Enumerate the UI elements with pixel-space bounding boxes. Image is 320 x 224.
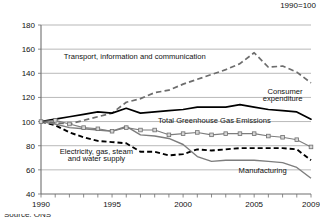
series-marker	[82, 126, 86, 130]
y-axis-tick-labels: 406080100120140160180	[22, 21, 36, 199]
x-tick-label: 2009	[302, 200, 320, 209]
source-note-strip: Source: ONS	[0, 214, 320, 224]
series-marker	[139, 128, 143, 132]
source-note: Source: ONS	[4, 214, 51, 219]
x-tick-label: 2000	[174, 200, 192, 209]
y-tick-label: 100	[22, 118, 36, 127]
series-annotation: Transport, information and communication	[64, 52, 206, 61]
series-marker	[167, 133, 171, 137]
series-marker	[252, 132, 256, 136]
series-marker	[110, 129, 114, 133]
series-marker	[281, 135, 285, 139]
series-marker	[210, 133, 214, 137]
series-marker	[68, 122, 72, 126]
series-marker	[224, 132, 228, 136]
series-marker	[267, 134, 271, 138]
chart-container: 1990=100 406080100120140160180 199019952…	[0, 0, 320, 224]
y-tick-label: 80	[26, 142, 35, 151]
series-annotations: Transport, information and communication…	[60, 52, 303, 176]
series-marker	[309, 145, 313, 149]
series-annotation: and water supply	[68, 154, 126, 163]
series-marker	[124, 126, 128, 130]
x-tick-label: 1995	[103, 200, 121, 209]
series-marker	[153, 128, 157, 132]
x-tick-label: 1990	[32, 200, 50, 209]
series-marker	[96, 127, 100, 131]
x-tick-label: 2005	[245, 200, 263, 209]
series-marker	[238, 132, 242, 136]
y-tick-label: 180	[22, 21, 36, 30]
y-tick-label: 120	[22, 93, 36, 102]
y-tick-label: 160	[22, 45, 36, 54]
x-axis-tick-labels: 19901995200020052009	[32, 200, 320, 209]
series-marker	[53, 119, 57, 123]
y-tick-label: 60	[26, 166, 35, 175]
series-marker	[39, 120, 43, 124]
series-marker	[181, 132, 185, 136]
y-tick-label: 40	[26, 190, 35, 199]
y-tick-label: 140	[22, 69, 36, 78]
series-marker	[295, 138, 299, 142]
series-marker	[196, 131, 200, 135]
series-annotation: Total Greenhouse Gas Emissions	[158, 116, 271, 125]
series-annotation: expenditure	[263, 94, 303, 103]
line-chart: 406080100120140160180 199019952000200520…	[0, 0, 320, 224]
series-annotation: Manufacturing	[239, 166, 287, 175]
